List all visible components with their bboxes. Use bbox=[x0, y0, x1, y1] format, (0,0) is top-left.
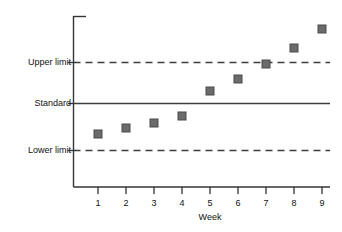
x-tick-label-8: 8 bbox=[286, 198, 302, 208]
x-tick-label-2: 2 bbox=[118, 198, 134, 208]
data-point-marker bbox=[318, 25, 326, 33]
data-point-group bbox=[94, 25, 326, 138]
control-chart: Upper limit Standard Lower limit 1 2 3 4… bbox=[0, 0, 342, 232]
x-tick-label-6: 6 bbox=[230, 198, 246, 208]
data-point-marker bbox=[262, 60, 270, 68]
data-point-marker bbox=[206, 87, 214, 95]
x-tick-label-4: 4 bbox=[174, 198, 190, 208]
data-point-marker bbox=[150, 119, 158, 127]
data-point-marker bbox=[122, 124, 130, 132]
x-tick-label-1: 1 bbox=[90, 198, 106, 208]
data-point-marker bbox=[290, 44, 298, 52]
x-axis-title: Week bbox=[170, 212, 250, 223]
x-axis-ticks bbox=[98, 187, 322, 194]
data-point-marker bbox=[234, 75, 242, 83]
x-tick-label-5: 5 bbox=[202, 198, 218, 208]
x-tick-label-7: 7 bbox=[258, 198, 274, 208]
data-point-marker bbox=[94, 130, 102, 138]
x-tick-label-9: 9 bbox=[314, 198, 330, 208]
x-tick-label-3: 3 bbox=[146, 198, 162, 208]
data-point-marker bbox=[178, 112, 186, 120]
